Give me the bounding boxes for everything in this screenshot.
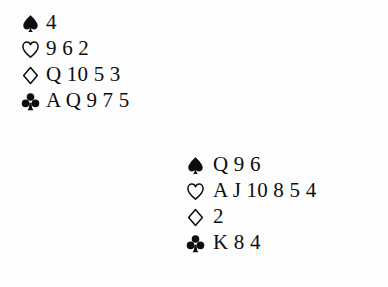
suit-ranks: Q 9 6 bbox=[213, 154, 261, 176]
diamond-icon bbox=[21, 66, 45, 85]
suit-row-hearts: A J 10 8 5 4 bbox=[186, 178, 316, 204]
club-icon bbox=[21, 92, 45, 111]
diamond-icon bbox=[186, 208, 210, 227]
hand-north: 4 9 6 2 Q 10 5 3 bbox=[21, 10, 129, 114]
suit-ranks: 2 bbox=[213, 206, 224, 228]
heart-icon bbox=[186, 182, 210, 201]
suit-ranks: K 8 4 bbox=[213, 232, 261, 254]
suit-ranks: A Q 9 7 5 bbox=[46, 90, 129, 112]
suit-row-diamonds: Q 10 5 3 bbox=[21, 62, 129, 88]
heart-icon bbox=[21, 40, 45, 59]
suit-row-diamonds: 2 bbox=[186, 204, 316, 230]
spade-icon bbox=[21, 14, 45, 33]
suit-ranks: Q 10 5 3 bbox=[46, 64, 121, 86]
hand-south: Q 9 6 A J 10 8 5 4 2 bbox=[186, 152, 316, 256]
suit-row-hearts: 9 6 2 bbox=[21, 36, 129, 62]
club-icon bbox=[186, 234, 210, 253]
suit-row-clubs: A Q 9 7 5 bbox=[21, 88, 129, 114]
suit-ranks: A J 10 8 5 4 bbox=[213, 180, 316, 202]
suit-ranks: 4 bbox=[46, 12, 57, 34]
suit-ranks: 9 6 2 bbox=[46, 38, 89, 60]
spade-icon bbox=[186, 156, 210, 175]
suit-row-clubs: K 8 4 bbox=[186, 230, 316, 256]
suit-row-spades: Q 9 6 bbox=[186, 152, 316, 178]
suit-row-spades: 4 bbox=[21, 10, 129, 36]
